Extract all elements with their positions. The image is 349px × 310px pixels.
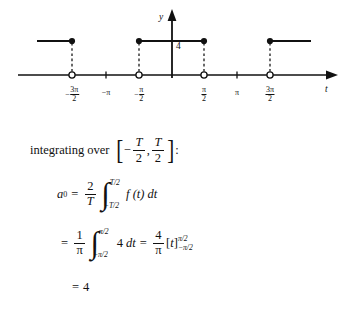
interval-upper-fraction: T 2 xyxy=(152,136,164,165)
coefficient-fraction: 2 T xyxy=(84,180,96,209)
tick-value: π xyxy=(106,88,110,97)
t-axis-label: t xyxy=(325,84,328,94)
tick-label-3pi-over-2: 3π2 xyxy=(265,86,274,104)
integral-operator: ∫ T/2 −T/2 xyxy=(101,179,122,209)
fraction-denominator: 2 xyxy=(133,151,144,165)
eval-limits: π/2 −π/2 xyxy=(178,235,193,252)
fraction-numerator: 1 xyxy=(74,229,85,244)
equals-sign-right: = xyxy=(140,236,147,251)
fraction-denominator: T xyxy=(84,195,96,209)
y-axis-label: y xyxy=(158,12,164,22)
differential: dt xyxy=(147,187,157,202)
equation-result: = 4 xyxy=(72,280,89,295)
upper-limit: π/2 xyxy=(99,227,114,236)
integrand: 4 xyxy=(117,236,123,251)
differential: dt xyxy=(126,236,136,251)
waveform-figure: y t 4 −3π2 −π −π2 π2 π 3π2 xyxy=(0,0,349,118)
equals-sign: = xyxy=(71,187,78,202)
a0-subscript: 0 xyxy=(63,190,67,199)
tick-label-neg-pi-over-2: −π2 xyxy=(134,86,144,104)
fraction-numerator: T xyxy=(133,136,145,151)
fraction-denominator: π xyxy=(153,244,164,258)
eval-lower-limit: −π/2 xyxy=(178,244,193,253)
tick-label-neg-pi: −π xyxy=(102,89,111,97)
fraction-numerator: 2 xyxy=(85,180,96,195)
tick-denominator: 2 xyxy=(139,95,144,103)
interval-lower-fraction: T 2 xyxy=(133,136,145,165)
interval-comma: , xyxy=(147,143,150,158)
fraction-numerator: 4 xyxy=(153,229,164,244)
equals-sign-left: = xyxy=(61,236,68,251)
waveform-plot: y t 4 xyxy=(0,0,349,118)
tick-value: π xyxy=(235,88,239,97)
lower-limit: −T/2 xyxy=(104,201,119,210)
derivation-body: integrating over [ − T 2 , T 2 ] : a0 = … xyxy=(0,118,349,310)
dashed-drop-lines xyxy=(72,43,270,73)
interval-lower-sign: − xyxy=(124,143,131,158)
tick-denominator: 2 xyxy=(70,95,79,103)
t-axis xyxy=(18,71,338,80)
lower-limit: −π/2 xyxy=(93,250,108,259)
evaluation-bracket: [ t ] π/2 −π/2 xyxy=(166,235,193,252)
tick-label-pi-over-2: π2 xyxy=(201,86,206,104)
result-value: 4 xyxy=(83,280,89,295)
integration-interval-line: integrating over [ − T 2 , T 2 ] : xyxy=(30,136,179,165)
bracket-open: [ xyxy=(116,139,123,162)
tick-denominator: 2 xyxy=(265,95,274,103)
bracket-close: ] xyxy=(167,139,174,162)
integrating-over-text: integrating over xyxy=(30,143,110,158)
integral-operator: ∫ π/2 −π/2 xyxy=(90,228,110,258)
equals-sign: = xyxy=(72,280,79,295)
fraction-numerator: T xyxy=(152,136,164,151)
interval-colon: : xyxy=(175,143,178,158)
equation-a0-definition: a0 = 2 T ∫ T/2 −T/2 f (t) dt xyxy=(57,179,157,209)
coefficient-fraction: 1 π xyxy=(74,229,85,258)
tick-label-neg-3pi-over-2: −3π2 xyxy=(65,86,79,104)
result-coefficient-fraction: 4 π xyxy=(153,229,164,258)
tick-label-pi: π xyxy=(235,89,239,97)
equation-evaluated: = 1 π ∫ π/2 −π/2 4 dt = 4 π [ t ] π/2 −π… xyxy=(57,228,193,258)
amplitude-label: 4 xyxy=(176,41,181,51)
fraction-denominator: 2 xyxy=(152,151,163,165)
tick-denominator: 2 xyxy=(201,95,206,103)
fraction-denominator: π xyxy=(74,244,85,258)
integrand: f (t) xyxy=(126,187,144,202)
upper-limit: T/2 xyxy=(110,178,125,187)
